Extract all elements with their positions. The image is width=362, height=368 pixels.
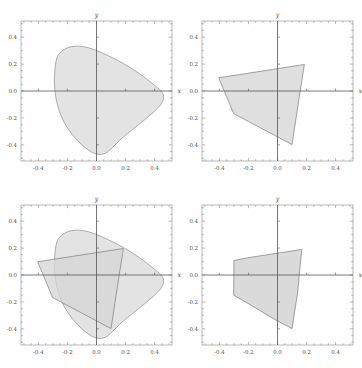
x-tick-label: 0.2 (121, 349, 130, 355)
x-tick-label: 0.2 (302, 349, 311, 355)
y-tick-label: -0.2 (188, 299, 198, 305)
y-tick-label: 0.2 (8, 61, 17, 67)
y-tick-label: -0.4 (188, 326, 199, 332)
y-tick-label: -0.4 (188, 142, 199, 148)
x-tick-label: 0.4 (150, 165, 159, 171)
x-tick-label: -0.2 (62, 165, 72, 171)
y-tick-label: -0.2 (7, 299, 17, 305)
x-tick-label: 0.0 (92, 165, 101, 171)
x-tick-label: -0.2 (243, 165, 253, 171)
x-tick-label: 0.0 (273, 349, 282, 355)
y-axis-label: y (275, 11, 280, 19)
x-tick-label: -0.4 (33, 165, 44, 171)
x-axis-label: x (359, 271, 362, 278)
x-tick-label: 0.0 (92, 349, 101, 355)
regions-layer (219, 64, 305, 144)
regions-layer (234, 249, 302, 328)
y-tick-label: 0.4 (8, 218, 17, 224)
y-tick-label: 0.4 (189, 218, 198, 224)
y-axis-label: y (94, 195, 99, 203)
x-tick-label: 0.2 (302, 165, 311, 171)
x-tick-label: 0.4 (331, 349, 340, 355)
regions-layer (54, 46, 163, 154)
y-tick-label: 0.4 (189, 34, 198, 40)
y-axis-label: y (94, 11, 99, 19)
x-tick-label: 0.4 (150, 349, 159, 355)
figure-root: 0.40.20.0-0.2-0.4-0.4-0.20.00.20.4yx0.40… (0, 0, 362, 368)
y-tick-label: 0.2 (189, 245, 198, 251)
y-tick-label: 0.0 (8, 272, 17, 278)
y-tick-label: 0.0 (189, 88, 198, 94)
y-tick-label: 0.2 (189, 61, 198, 67)
x-tick-label: -0.4 (214, 349, 225, 355)
x-axis-label: x (359, 87, 362, 94)
y-tick-label: -0.2 (7, 115, 17, 121)
region-blob (54, 46, 163, 154)
region-intersection (234, 249, 302, 328)
y-axis-label: y (275, 195, 280, 203)
regions-layer (38, 230, 164, 338)
plot-panel-top-left: 0.40.20.0-0.2-0.4-0.4-0.20.00.20.4yx (0, 0, 181, 184)
x-tick-label: 0.0 (273, 165, 282, 171)
x-tick-label: 0.2 (121, 165, 130, 171)
y-tick-label: 0.2 (8, 245, 17, 251)
y-tick-label: 0.0 (189, 272, 198, 278)
y-tick-label: 0.0 (8, 88, 17, 94)
plot-panel-bottom-right: 0.40.20.0-0.2-0.4-0.4-0.20.00.20.4yx (181, 184, 362, 368)
y-tick-label: 0.4 (8, 34, 17, 40)
y-tick-label: -0.4 (7, 326, 18, 332)
x-tick-label: -0.4 (33, 349, 44, 355)
x-tick-label: -0.4 (214, 165, 225, 171)
plot-panel-top-right: 0.40.20.0-0.2-0.4-0.4-0.20.00.20.4yx (181, 0, 362, 184)
x-tick-label: -0.2 (243, 349, 253, 355)
x-tick-label: -0.2 (62, 349, 72, 355)
plot-panel-bottom-left: 0.40.20.0-0.2-0.4-0.4-0.20.00.20.4yx (0, 184, 181, 368)
x-tick-label: 0.4 (331, 165, 340, 171)
y-tick-label: -0.2 (188, 115, 198, 121)
y-tick-label: -0.4 (7, 142, 18, 148)
region-polygon (219, 64, 305, 144)
